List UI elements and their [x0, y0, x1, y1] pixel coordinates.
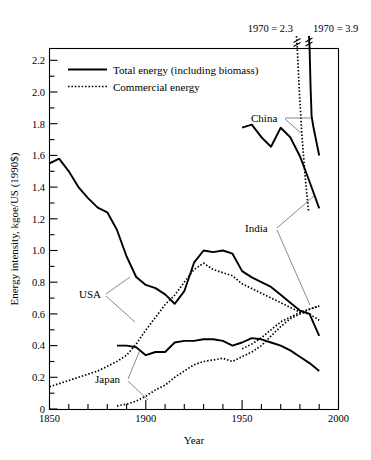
y-tick-1-0: 1.0	[32, 245, 45, 256]
label-china: China	[251, 112, 277, 124]
y-tick-1-6: 1.6	[32, 150, 45, 161]
y-tick-1-2: 1.2	[32, 214, 45, 225]
label-usa: USA	[79, 288, 101, 300]
y-axis-title: Energy intensity, kgoe/US (1990$)	[8, 152, 21, 305]
energy-intensity-chart: 0 0.2 0.4 0.6 0.8 1.0 1.2 1.4 1.6 1.8 2.…	[0, 0, 371, 460]
y-tick-1-4: 1.4	[32, 182, 46, 193]
y-tick-0-2: 0.2	[32, 372, 45, 383]
label-india: India	[245, 222, 268, 234]
legend-label-commercial: Commercial energy	[113, 81, 200, 93]
annotation-china-commercial: 1970 = 2.3	[248, 23, 293, 34]
annotation-china-total: 1970 = 3.9	[313, 23, 358, 34]
y-tick-2-0: 2.0	[32, 87, 45, 98]
y-tick-1-8: 1.8	[32, 119, 45, 130]
label-japan: Japan	[95, 373, 121, 385]
x-tick-1950: 1950	[232, 413, 253, 424]
chart-figure: 0 0.2 0.4 0.6 0.8 1.0 1.2 1.4 1.6 1.8 2.…	[0, 0, 371, 460]
x-axis-title: Year	[184, 434, 205, 446]
x-tick-2000: 2000	[328, 413, 349, 424]
legend-label-total: Total energy (including biomass)	[113, 64, 259, 77]
y-tick-0-8: 0.8	[32, 277, 45, 288]
x-tick-1900: 1900	[135, 413, 156, 424]
y-tick-2-2: 2.2	[32, 55, 45, 66]
y-tick-0-4: 0.4	[32, 340, 46, 351]
x-tick-1850: 1850	[39, 413, 60, 424]
y-tick-0-6: 0.6	[32, 309, 45, 320]
